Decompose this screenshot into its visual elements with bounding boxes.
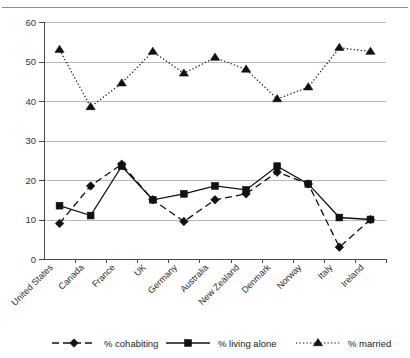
- data-point: [179, 69, 188, 76]
- data-point: [56, 202, 63, 209]
- x-axis-tick-group-9: Italy: [316, 262, 335, 281]
- legend-label: % living alone: [218, 338, 277, 349]
- data-point: [335, 43, 344, 50]
- data-point: [55, 45, 64, 52]
- y-axis-label-20: 20: [25, 175, 36, 186]
- y-axis-label-0: 0: [31, 254, 36, 265]
- data-point: [366, 47, 375, 54]
- x-axis-label: United States: [9, 262, 55, 308]
- series-line: [60, 166, 371, 219]
- data-point: [181, 190, 188, 197]
- x-axis-tick-group-1: Canada: [56, 262, 85, 291]
- data-point: [274, 163, 281, 170]
- legend-item-0[interactable]: % cohabiting: [52, 338, 158, 349]
- x-axis-label: Ireland: [339, 262, 366, 289]
- data-point: [180, 217, 189, 226]
- data-point: [87, 212, 94, 219]
- data-point: [118, 163, 125, 170]
- y-axis-label-50: 50: [25, 56, 36, 67]
- x-axis-tick-group-7: Denmark: [239, 262, 272, 295]
- x-axis-label: Denmark: [239, 262, 272, 295]
- x-axis-tick-group-10: Ireland: [339, 262, 366, 289]
- legend-item-2[interactable]: % married: [296, 338, 391, 349]
- series-line: [60, 164, 371, 247]
- x-axis-label: Australia: [178, 262, 210, 294]
- data-point: [211, 195, 220, 204]
- x-axis-label: Canada: [56, 262, 85, 291]
- clipped-page-title: [0, 0, 410, 4]
- data-point: [149, 196, 156, 203]
- x-axis-label: UK: [132, 262, 148, 278]
- x-axis-label: France: [90, 262, 117, 289]
- data-point: [212, 183, 219, 190]
- legend-label: % married: [348, 338, 391, 349]
- x-axis-tick-group-0: United States: [9, 262, 55, 308]
- legend-square-marker-icon: [185, 340, 192, 347]
- chart-canvas: 6050403020100United StatesCanadaFranceUK…: [0, 0, 410, 358]
- legend-label: % cohabiting: [104, 338, 158, 349]
- x-axis-tick-group-2: France: [90, 262, 117, 289]
- x-axis-label: Italy: [316, 262, 335, 281]
- data-point: [305, 181, 312, 188]
- data-point: [148, 47, 157, 54]
- x-axis-tick-group-4: Germany: [146, 262, 180, 296]
- line-chart: 6050403020100United StatesCanadaFranceUK…: [0, 0, 410, 358]
- data-point: [243, 186, 250, 193]
- legend-triangle-marker-icon: [313, 339, 322, 346]
- data-point: [86, 102, 95, 109]
- data-point: [273, 95, 282, 102]
- y-axis-label-30: 30: [25, 135, 36, 146]
- series-cohabiting: [55, 160, 375, 252]
- data-point: [241, 65, 250, 72]
- data-point: [210, 53, 219, 60]
- x-axis-tick-group-5: Australia: [178, 262, 210, 294]
- series-married: [55, 43, 375, 109]
- x-axis-label: Germany: [146, 262, 180, 296]
- y-axis-label-60: 60: [25, 17, 36, 28]
- data-point: [304, 83, 313, 90]
- y-axis-label-40: 40: [25, 96, 36, 107]
- data-point: [367, 216, 374, 223]
- y-axis-label-10: 10: [25, 214, 36, 225]
- legend-item-1[interactable]: % living alone: [166, 338, 277, 349]
- legend-diamond-marker-icon: [70, 339, 79, 348]
- series-living-alone: [56, 163, 374, 223]
- header-divider: [2, 7, 408, 8]
- x-axis-label: Norway: [275, 262, 304, 291]
- data-point: [336, 214, 343, 221]
- x-axis-tick-group-8: Norway: [275, 262, 304, 291]
- x-axis-tick-group-3: UK: [132, 262, 148, 278]
